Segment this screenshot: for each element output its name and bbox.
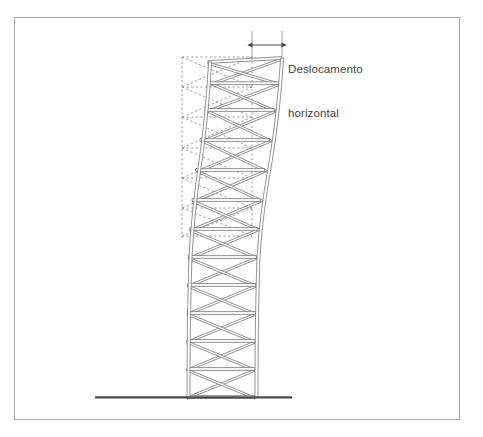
tie	[187, 340, 255, 343]
displacement-label: Deslocamento horizontal	[288, 33, 438, 149]
tie	[209, 82, 279, 85]
brace	[197, 170, 262, 202]
figure-root: Deslocamento horizontal	[0, 0, 483, 437]
tie	[192, 199, 260, 202]
displacement-label-line1: Deslocamento	[288, 62, 438, 77]
tie	[187, 312, 255, 315]
displacement-dimension	[252, 31, 282, 60]
brace	[208, 110, 271, 142]
tie	[190, 228, 258, 231]
tie	[188, 256, 256, 259]
deformed-tower-group	[187, 57, 284, 400]
tie	[200, 139, 270, 142]
tie	[205, 109, 275, 112]
displacement-label-line2: horizontal	[288, 106, 438, 121]
brace	[202, 140, 266, 172]
tie	[196, 169, 265, 172]
tie	[188, 284, 256, 287]
tie	[187, 368, 255, 371]
